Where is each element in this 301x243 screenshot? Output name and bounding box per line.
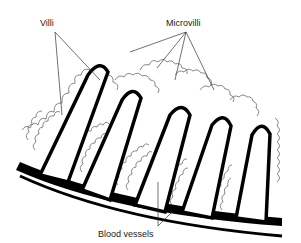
villi-label: Villi — [40, 18, 54, 28]
villi-diagram — [0, 0, 301, 243]
villus-4 — [182, 118, 231, 218]
villus-3 — [135, 108, 190, 213]
villus-5 — [236, 126, 270, 222]
blood-vessels-label: Blood vessels — [98, 229, 154, 239]
microvilli-label: Microvilli — [166, 18, 201, 28]
